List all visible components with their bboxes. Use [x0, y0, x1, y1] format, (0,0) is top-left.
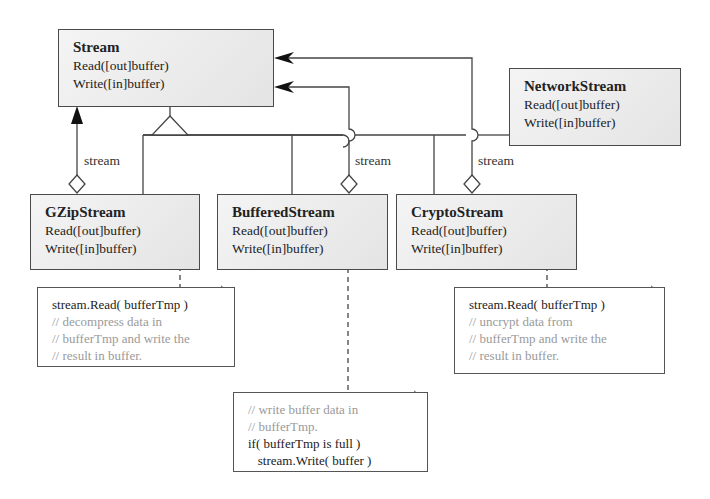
- class-gzipstream[interactable]: GZipStream Read([out]buffer) Write([in]b…: [30, 194, 200, 270]
- class-bufferedstream[interactable]: BufferedStream Read([out]buffer) Write([…: [217, 194, 388, 270]
- association-label-crypto: stream: [478, 153, 514, 169]
- class-name: NetworkStream: [524, 77, 680, 96]
- note-line: stream.Read( bufferTmp ): [52, 296, 234, 313]
- note-line: // decompress data in: [52, 313, 234, 330]
- note-line: // uncrypt data from: [469, 313, 664, 330]
- class-name: BufferedStream: [232, 203, 387, 222]
- note-line: stream.Write( buffer ): [248, 452, 427, 469]
- note-line: // bufferTmp and write the: [52, 330, 234, 347]
- aggregation-diamond-icon: [464, 175, 480, 193]
- note-line: // write buffer data in: [248, 401, 427, 418]
- note-line: stream.Read( bufferTmp ): [469, 296, 664, 313]
- operation-write: Write([in]buffer): [232, 240, 387, 258]
- association-label-gzip: stream: [84, 153, 120, 169]
- operation-write: Write([in]buffer): [411, 240, 576, 258]
- inheritance-triangle-icon: [152, 116, 188, 135]
- arrowhead-icon: [71, 106, 83, 124]
- aggregation-diamond-icon: [69, 175, 85, 193]
- class-name: GZipStream: [45, 203, 199, 222]
- note-line: // bufferTmp.: [248, 418, 427, 435]
- note-line: // bufferTmp and write the: [469, 330, 664, 347]
- note-line: // result in buffer.: [469, 347, 664, 364]
- operation-read: Read([out]buffer): [73, 57, 273, 75]
- note-gzip: stream.Read( bufferTmp ) // decompress d…: [37, 287, 235, 367]
- class-name: Stream: [73, 38, 273, 57]
- operation-read: Read([out]buffer): [45, 222, 199, 240]
- note-line: // result in buffer.: [52, 347, 234, 364]
- association-label-buffered: stream: [355, 153, 391, 169]
- class-stream[interactable]: Stream Read([out]buffer) Write([in]buffe…: [58, 29, 274, 107]
- operation-write: Write([in]buffer): [73, 75, 273, 93]
- class-networkstream[interactable]: NetworkStream Read([out]buffer) Write([i…: [509, 68, 681, 146]
- operation-write: Write([in]buffer): [524, 114, 680, 132]
- class-name: CryptoStream: [411, 203, 576, 222]
- operation-read: Read([out]buffer): [232, 222, 387, 240]
- class-cryptostream[interactable]: CryptoStream Read([out]buffer) Write([in…: [396, 194, 577, 270]
- operation-write: Write([in]buffer): [45, 240, 199, 258]
- operation-read: Read([out]buffer): [411, 222, 576, 240]
- inheritance-bus: [143, 135, 349, 147]
- note-crypto: stream.Read( bufferTmp ) // uncrypt data…: [454, 287, 665, 374]
- note-buffered: // write buffer data in // bufferTmp. if…: [233, 392, 428, 472]
- note-line: if( bufferTmp is full ): [248, 435, 427, 452]
- operation-read: Read([out]buffer): [524, 96, 680, 114]
- aggregation-diamond-icon: [341, 175, 357, 193]
